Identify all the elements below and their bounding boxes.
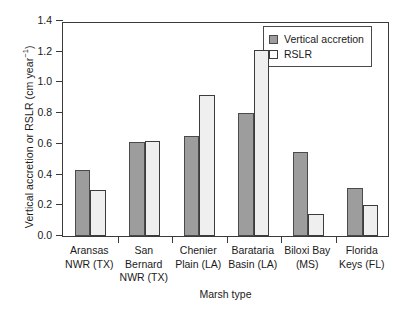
x-axis-category-label: Florida Keys (FL)	[329, 244, 396, 271]
bar-chart-figure: Vertical accretion or RSLR (cm year−1) 0…	[0, 0, 407, 311]
bar-rslr	[308, 214, 324, 236]
y-axis-title: Vertical accretion or RSLR (cm year−1)	[21, 17, 35, 257]
legend-item-rslr: RSLR	[269, 47, 364, 61]
x-axis-tick	[172, 236, 173, 243]
y-axis-tick-label: 0.4	[37, 168, 52, 181]
y-axis-tick: 0.0	[56, 235, 63, 236]
y-axis-tick-label: 0.0	[37, 229, 52, 242]
x-axis-tick	[281, 236, 282, 243]
bar-rslr	[145, 141, 161, 236]
legend-swatch-icon-vertical-accretion	[269, 35, 278, 44]
bar-vertical-accretion	[347, 188, 363, 236]
y-axis-tick: 0.4	[56, 174, 63, 175]
bar-vertical-accretion	[184, 136, 200, 236]
legend-item-vertical-accretion: Vertical accretion	[269, 32, 364, 46]
y-axis-tick-label: 1.4	[37, 14, 52, 27]
y-axis-tick-label: 0.2	[37, 198, 52, 211]
y-axis-tick-label: 1.2	[37, 45, 52, 58]
bar-vertical-accretion	[75, 170, 91, 236]
y-axis-tick-label: 0.6	[37, 137, 52, 150]
y-axis-tick: 0.2	[56, 204, 63, 205]
y-axis-tick: 0.6	[56, 143, 63, 144]
bar-vertical-accretion	[293, 152, 309, 236]
y-axis-tick-label: 1.0	[37, 75, 52, 88]
y-axis-tick: 1.4	[56, 20, 63, 21]
legend-swatch-icon-rslr	[269, 50, 278, 59]
x-axis-title: Marsh type	[62, 288, 389, 300]
y-axis-tick: 1.2	[56, 51, 63, 52]
x-axis-tick	[227, 236, 228, 243]
x-axis-tick	[118, 236, 119, 243]
bar-rslr	[199, 95, 215, 236]
y-axis-title-tail: )	[23, 45, 35, 49]
bar-vertical-accretion	[238, 113, 254, 236]
y-axis-title-exponent: −1	[21, 49, 30, 58]
bar-vertical-accretion	[129, 142, 145, 236]
y-axis-tick: 1.0	[56, 81, 63, 82]
y-axis-tick: 0.8	[56, 112, 63, 113]
x-axis-tick	[336, 236, 337, 243]
legend-label-vertical-accretion: Vertical accretion	[284, 33, 364, 45]
bar-rslr	[90, 190, 106, 236]
legend-label-rslr: RSLR	[284, 48, 312, 60]
legend: Vertical accretion RSLR	[263, 26, 372, 67]
bar-rslr	[363, 205, 379, 236]
y-axis-tick-label: 0.8	[37, 106, 52, 119]
y-axis-title-main: Vertical accretion or RSLR (cm year	[23, 58, 35, 228]
bar-rslr	[254, 50, 270, 236]
